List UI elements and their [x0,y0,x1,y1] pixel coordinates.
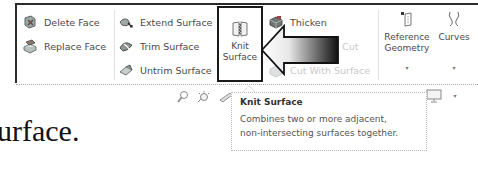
document-text: urface. [0,114,79,148]
knit-surface-label: Knit Surface [219,41,261,63]
annotation-arrow [260,24,340,76]
replace-face-label: Replace Face [44,41,106,52]
knit-surface-label-line2: Surface [219,52,261,63]
tooltip-description-line1: Combines two or more adjacent, [240,112,426,126]
trim-surface-icon [118,38,134,54]
reference-geometry-label-line2: Geometry [381,43,433,54]
view-toolbar [176,90,234,104]
cut-label: Cut [342,41,358,52]
untrim-surface-icon [118,62,134,78]
ribbon-top-border [16,3,478,5]
curves-dropdown-arrow[interactable]: ▾ [437,64,471,71]
tooltip-title: Knit Surface [240,97,303,107]
trim-surface-label: Trim Surface [140,41,199,52]
knit-surface-label-line1: Knit [219,41,261,52]
replace-face-button[interactable]: Replace Face [22,37,106,55]
tooltip-description: Combines two or more adjacent, non-inter… [240,112,426,140]
tooltip: Knit Surface Combines two or more adjace… [231,92,427,151]
curves-icon [446,10,462,28]
replace-face-icon [22,38,38,54]
delete-face-label: Delete Face [44,17,100,28]
curves-label: Curves [437,32,471,43]
reference-geometry-icon [399,10,415,28]
zoom-icon[interactable] [176,90,190,104]
trim-surface-button[interactable]: Trim Surface [118,37,212,55]
reference-geometry-label-line1: Reference [381,32,433,43]
curves-button[interactable]: Curves ▾ [437,10,471,71]
ribbon-separator [378,10,379,80]
monitor-icon[interactable] [426,89,442,103]
ribbon-column-surface: Extend Surface Trim Surface Untrim Surfa… [118,13,212,79]
ribbon-separator [114,10,115,80]
tooltip-description-line2: non-intersecting surfaces together. [240,126,426,140]
untrim-surface-button[interactable]: Untrim Surface [118,61,212,79]
lighting-icon[interactable] [196,90,212,104]
extend-surface-label: Extend Surface [140,17,212,28]
extend-surface-button[interactable]: Extend Surface [118,13,212,31]
reference-geometry-button[interactable]: Reference Geometry ▾ [381,10,433,71]
ribbon-column-face: Delete Face Replace Face [22,13,106,55]
delete-face-icon [22,14,38,30]
display-dropdown-arrow[interactable]: ▾ [450,92,460,99]
knit-surface-icon [231,20,249,38]
extend-surface-icon [118,14,134,30]
delete-face-button[interactable]: Delete Face [22,13,106,31]
reference-geometry-dropdown-arrow[interactable]: ▾ [381,64,433,71]
knit-surface-button[interactable]: Knit Surface [217,6,263,82]
ribbon-left-border [15,3,17,83]
untrim-surface-label: Untrim Surface [140,65,212,76]
